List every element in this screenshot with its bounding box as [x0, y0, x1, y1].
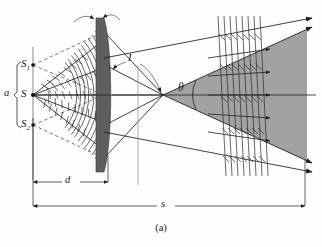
image-callout-arrows [113, 62, 161, 92]
dimension-s [33, 160, 305, 206]
figure-caption: (a) [0, 222, 322, 233]
label-S1: S1 [21, 58, 30, 72]
diagram-canvas [0, 0, 322, 247]
label-distance-d: d [65, 175, 70, 186]
label-S2: S2 [21, 118, 30, 132]
label-aperture-a: a [4, 88, 9, 99]
source-point-S1 [31, 63, 35, 67]
label-distance-s: s [161, 199, 165, 210]
label-image-I: I [128, 53, 132, 64]
source-point-S [31, 93, 35, 97]
optics-figure: S1 S S2 a I θ d s (a) [0, 0, 322, 247]
aperture-bracket [14, 62, 21, 128]
label-theta: θ [178, 82, 184, 94]
label-S: S [21, 88, 27, 99]
